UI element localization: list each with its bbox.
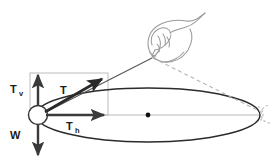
label-tension-horizontal-subscript: h <box>75 126 80 135</box>
label-weight: W <box>10 129 21 141</box>
diagram-canvas: T v T T h W <box>0 0 279 164</box>
ball-mass-icon <box>29 106 48 125</box>
label-tension-resultant: T <box>60 84 67 96</box>
string-dashed-segment <box>153 58 261 112</box>
physics-force-diagram: T v T T h W <box>0 0 279 164</box>
vector-tension-resultant <box>45 79 102 112</box>
label-tension-horizontal: T <box>66 120 73 132</box>
label-tension-vertical: T <box>10 83 17 95</box>
orbit-center-dot <box>146 113 151 118</box>
hand-icon <box>148 13 205 62</box>
label-tension-vertical-subscript: v <box>19 89 24 98</box>
